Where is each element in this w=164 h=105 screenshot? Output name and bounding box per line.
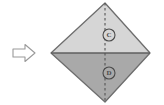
marker-lower: D xyxy=(103,67,115,79)
upper-triangle xyxy=(51,3,150,53)
marker-upper-circle xyxy=(103,29,115,41)
step-arrow xyxy=(13,45,35,62)
figure-canvas: C D xyxy=(0,0,164,105)
marker-lower-circle xyxy=(103,67,115,79)
origami-step-figure: C D xyxy=(0,0,164,105)
step-arrow-glyph xyxy=(13,45,35,62)
lower-triangle xyxy=(51,53,150,102)
marker-upper: C xyxy=(103,29,115,41)
